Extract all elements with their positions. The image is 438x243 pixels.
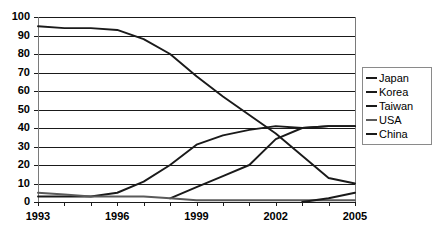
x-axis-label-1996: 1996 [92, 211, 142, 222]
y-axis-label-90: 90 [0, 30, 30, 41]
y-axis-label-60: 60 [0, 85, 30, 96]
legend-item-china[interactable]: China [366, 127, 429, 141]
legend-item-korea[interactable]: Korea [366, 85, 429, 99]
y-axis-label-20: 20 [0, 159, 30, 170]
legend-swatch-usa-icon [366, 119, 377, 121]
y-axis-label-70: 70 [0, 67, 30, 78]
y-axis-label-50: 50 [0, 104, 30, 115]
legend-swatch-korea-icon [366, 91, 377, 93]
legend-label: Korea [379, 87, 408, 98]
y-axis-label-40: 40 [0, 122, 30, 133]
series-lines [38, 26, 355, 202]
x-axis-label-1999: 1999 [172, 211, 222, 222]
legend: JapanKoreaTaiwanUSAChina [362, 67, 432, 145]
legend-label: USA [379, 115, 402, 126]
x-axis-label-1993: 1993 [13, 211, 63, 222]
y-axis-label-0: 0 [0, 196, 30, 207]
x-axis-label-2002: 2002 [251, 211, 301, 222]
line-chart: 0102030405060708090100 19931996199920022… [0, 0, 438, 243]
legend-item-usa[interactable]: USA [366, 113, 429, 127]
y-axis-ticks [34, 18, 38, 203]
x-axis-label-2005: 2005 [330, 211, 380, 222]
legend-label: Japan [379, 73, 409, 84]
series-line-japan [38, 26, 355, 183]
y-axis-label-100: 100 [0, 11, 30, 22]
legend-swatch-china-icon [366, 133, 377, 135]
gridlines [38, 18, 355, 203]
series-line-usa [38, 193, 355, 200]
legend-swatch-taiwan-icon [366, 105, 377, 107]
y-axis-label-10: 10 [0, 178, 30, 189]
legend-label: China [379, 129, 408, 140]
legend-swatch-japan-icon [366, 77, 377, 79]
series-line-taiwan [170, 126, 355, 198]
y-axis-label-30: 30 [0, 141, 30, 152]
legend-item-taiwan[interactable]: Taiwan [366, 99, 429, 113]
axis-lines [39, 17, 356, 202]
legend-label: Taiwan [379, 101, 413, 112]
y-axis-label-80: 80 [0, 48, 30, 59]
legend-item-japan[interactable]: Japan [366, 71, 429, 85]
